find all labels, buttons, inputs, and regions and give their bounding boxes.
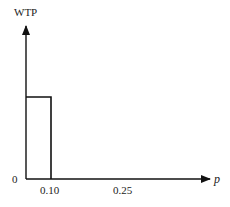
wtp-chart: WTP p 0 0.10 0.25	[0, 0, 230, 207]
origin-label: 0	[12, 173, 18, 185]
wtp-step-bar	[26, 97, 51, 179]
x-tick-0-10: 0.10	[40, 184, 60, 196]
y-axis-label: WTP	[14, 6, 37, 18]
x-axis-label: p	[213, 172, 220, 186]
x-tick-0-25: 0.25	[113, 184, 133, 196]
